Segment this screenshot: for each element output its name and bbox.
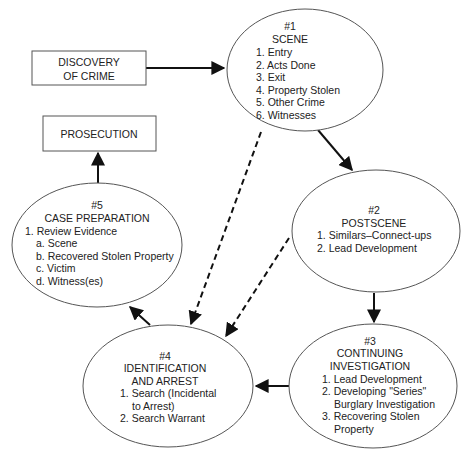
- discovery-line-2: OF CRIME: [63, 70, 114, 82]
- node-scene: #1 SCENE 1. Entry 2. Acts Done 3. Exit 4…: [227, 9, 383, 131]
- node-continuing-investigation: #3 CONTINUING INVESTIGATION 1. Lead Deve…: [289, 324, 457, 448]
- identification-item: 2. Search Warrant: [120, 412, 205, 424]
- caseprep-item: 1. Review Evidence: [25, 225, 117, 237]
- continuing-item: 2. Developing "Series": [322, 385, 427, 397]
- scene-title: SCENE: [272, 33, 308, 45]
- node-discovery-of-crime: DISCOVERY OF CRIME: [32, 51, 146, 85]
- node-prosecution: PROSECUTION: [43, 116, 156, 151]
- edge-scene-to-postscene: [318, 130, 352, 170]
- postscene-item: 1. Similars–Connect-ups: [317, 229, 431, 241]
- scene-item: 1. Entry: [256, 46, 293, 58]
- scene-number: #1: [284, 20, 296, 32]
- caseprep-number: #5: [91, 199, 103, 211]
- node-case-preparation: #5 CASE PREPARATION 1. Review Evidence a…: [12, 183, 182, 307]
- continuing-title-1: CONTINUING: [337, 347, 404, 359]
- discovery-line-1: DISCOVERY: [58, 56, 120, 68]
- identification-title-2: AND ARREST: [131, 375, 199, 387]
- investigation-flow-diagram: DISCOVERY OF CRIME PROSECUTION #1 SCENE …: [0, 0, 475, 461]
- caseprep-title: CASE PREPARATION: [44, 212, 149, 224]
- edge-scene-to-identification-dashed: [191, 132, 261, 324]
- continuing-item: 3. Recovering Stolen: [322, 410, 420, 422]
- postscene-number: #2: [368, 204, 380, 216]
- caseprep-subitem: d. Witness(es): [36, 275, 103, 287]
- continuing-title-2: INVESTIGATION: [330, 360, 410, 372]
- edge-postscene-to-identification-dashed: [226, 238, 289, 336]
- identification-item: 1. Search (Incidental: [120, 387, 216, 399]
- node-postscene: #2 POSTSCENE 1. Similars–Connect-ups 2. …: [292, 170, 460, 292]
- scene-item: 4. Property Stolen: [256, 84, 340, 96]
- scene-item: 6. Witnesses: [256, 109, 316, 121]
- continuing-item: Property: [334, 423, 374, 435]
- continuing-number: #3: [364, 335, 376, 347]
- scene-item: 2. Acts Done: [256, 59, 316, 71]
- node-identification-and-arrest: #4 IDENTIFICATION AND ARREST 1. Search (…: [83, 325, 253, 447]
- caseprep-subitem: c. Victim: [36, 262, 76, 274]
- edge-identification-to-caseprep: [130, 307, 150, 325]
- caseprep-subitem: a. Scene: [36, 237, 78, 249]
- identification-item: to Arrest): [132, 400, 175, 412]
- continuing-item: 1. Lead Development: [322, 373, 422, 385]
- postscene-item: 2. Lead Development: [317, 242, 417, 254]
- identification-title-1: IDENTIFICATION: [124, 362, 207, 374]
- scene-item: 3. Exit: [256, 71, 285, 83]
- caseprep-subitem: b. Recovered Stolen Property: [36, 250, 174, 262]
- prosecution-label: PROSECUTION: [60, 128, 137, 140]
- identification-number: #4: [159, 350, 171, 362]
- postscene-title: POSTSCENE: [342, 217, 407, 229]
- scene-item: 5. Other Crime: [256, 96, 325, 108]
- continuing-item: Burglary Investigation: [334, 398, 435, 410]
